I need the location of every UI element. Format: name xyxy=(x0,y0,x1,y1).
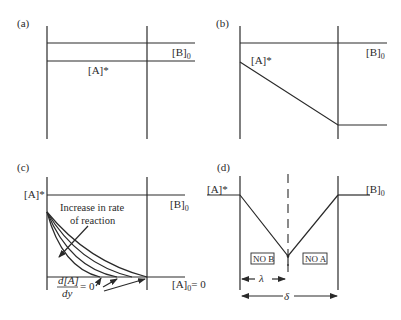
panel-c-label: (c) xyxy=(17,161,30,174)
zero-slope-arrow-3 xyxy=(104,279,145,291)
figure-canvas: (a) [B]0 [A]* (b) [B]0 [A]* (c) [A]* [B]… xyxy=(0,0,401,320)
b0-label: [B]0 xyxy=(366,46,385,61)
reaction-plane-point xyxy=(287,255,290,258)
deriv-numerator: d[A] xyxy=(58,274,79,286)
lambda-label: λ xyxy=(258,272,264,284)
zero-slope-arrow-1 xyxy=(96,278,101,286)
a-star-label: [A]* xyxy=(207,183,228,195)
panel-a-label: (a) xyxy=(17,17,30,30)
panel-b-label: (b) xyxy=(216,17,229,30)
a-star-label: [A]* xyxy=(24,188,45,200)
zero-slope-arrow-2 xyxy=(103,279,117,287)
delta-label: δ xyxy=(284,290,290,302)
a0-label: [A]0= 0 xyxy=(172,278,206,293)
a-star-label: [A]* xyxy=(88,64,109,76)
a-star-label: [A]* xyxy=(251,54,272,66)
rate-annotation-line2: of reaction xyxy=(70,215,116,226)
panel-a: (a) [B]0 [A]* xyxy=(17,17,195,139)
panel-d-label: (d) xyxy=(217,161,230,174)
deriv-denominator: dy xyxy=(62,287,73,299)
panel-d: (d) [A]* [B]0 NO B NO A λ δ xyxy=(207,161,385,302)
panel-b: (b) [B]0 [A]* xyxy=(216,17,387,139)
v-concentration-profile xyxy=(240,195,338,256)
b0-label: [B]0 xyxy=(172,46,191,61)
a-concentration-profile xyxy=(240,62,387,125)
rate-annotation-line1: Increase in rate xyxy=(60,202,124,213)
no-b-label: NO B xyxy=(253,254,274,264)
b0-label: [B]0 xyxy=(170,198,189,213)
no-a-label: NO A xyxy=(305,254,327,264)
b0-label: [B]0 xyxy=(366,183,385,198)
panel-c: (c) [A]* [B]0 Increase in rate of reacti… xyxy=(17,161,206,299)
deriv-equals-zero: = 0 xyxy=(80,280,95,292)
